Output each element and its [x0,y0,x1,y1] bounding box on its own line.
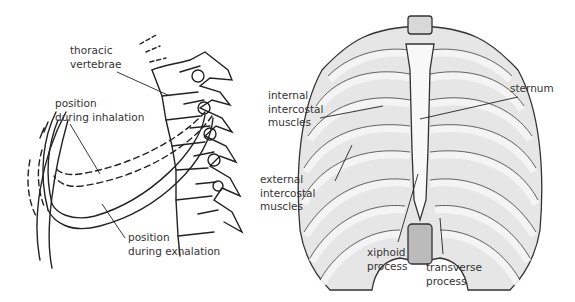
label-transverse-process: transverse process [426,261,482,288]
label-internal-intercostal-muscles: internal intercostal muscles [268,89,323,130]
label-xiphoid-process: xiphoid process [367,246,407,273]
label-position-inhalation: position during inhalation [55,97,144,124]
rib-cage-drawing [298,16,542,290]
label-sternum: sternum [510,82,554,96]
label-external-intercostal-muscles: external intercostal muscles [260,173,315,214]
label-thoracic-vertebrae: thoracic vertebrae [70,44,121,71]
label-position-exhalation: position during exhalation [128,231,220,258]
